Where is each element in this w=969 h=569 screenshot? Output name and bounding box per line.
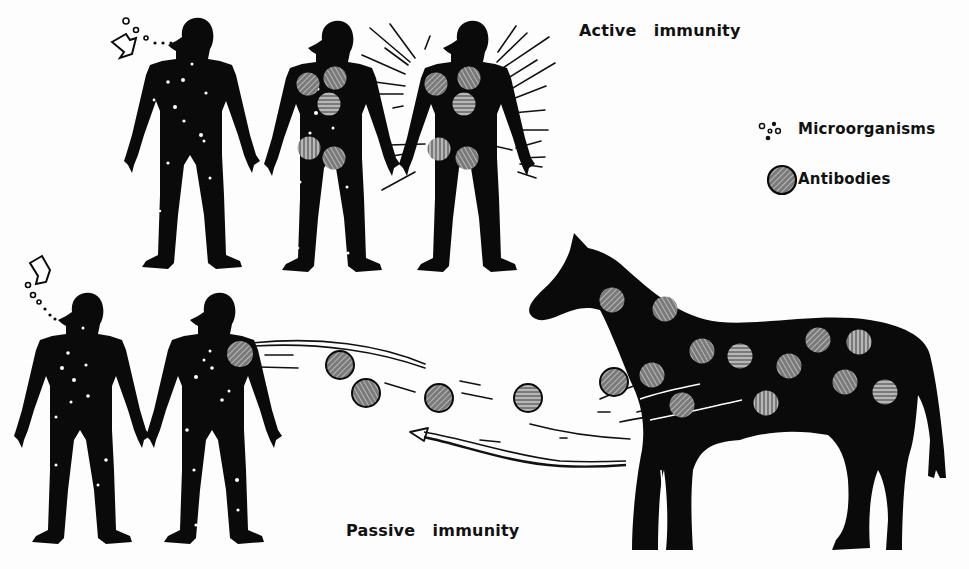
inhale-arrow-icon <box>112 18 173 58</box>
title-active-immunity: Active immunity <box>579 21 741 40</box>
legend-label-microorganisms: Microorganisms <box>798 120 935 138</box>
active-person-infected <box>124 18 260 269</box>
passive-person-receiving-antibodies <box>146 293 282 544</box>
legend-label-antibodies: Antibodies <box>798 170 891 188</box>
active-person-producing-antibodies <box>264 21 400 272</box>
passive-person-infected <box>14 293 150 544</box>
immunity-diagram: Active immunity Passive immunity Microor… <box>0 0 969 569</box>
horse-donor <box>529 233 946 550</box>
microorganisms-icon <box>759 123 780 140</box>
inhale-arrow-icon <box>26 256 57 321</box>
antibody-icon <box>768 166 796 194</box>
diagram-canvas <box>0 0 969 569</box>
title-passive-immunity: Passive immunity <box>346 521 519 540</box>
antibodies-in-transit <box>326 351 628 412</box>
return-arrow-icon <box>410 428 626 467</box>
